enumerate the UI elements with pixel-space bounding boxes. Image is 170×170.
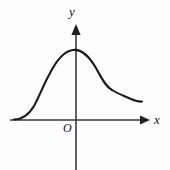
x-axis-label: x <box>154 113 160 126</box>
x-axis-arrowhead <box>140 116 150 125</box>
y-axis-arrowhead <box>71 24 80 35</box>
plotted-curve <box>14 50 142 120</box>
origin-label: O <box>63 122 72 134</box>
graph-canvas <box>0 0 170 170</box>
coordinate-graph-figure: y x O <box>0 0 170 170</box>
y-axis-label: y <box>69 5 75 18</box>
